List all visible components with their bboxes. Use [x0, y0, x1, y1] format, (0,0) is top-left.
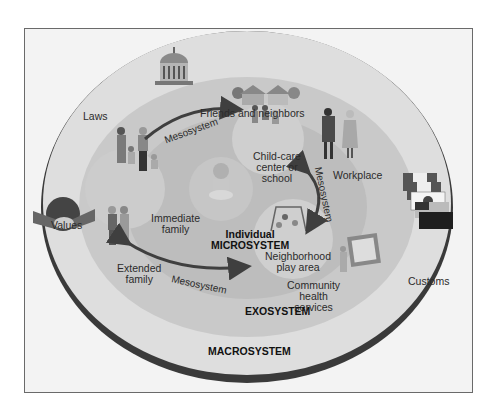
immediate-family-label: Immediate family [151, 213, 200, 235]
childcare-label: Child-care center or school [253, 151, 301, 184]
values-label: Values [51, 220, 82, 231]
microsystem-label: Individual MICROSYSTEM [211, 229, 289, 251]
customs-label: Customs [408, 276, 449, 287]
play-area-label: Neighborhood play area [265, 251, 331, 273]
workplace-label: Workplace [333, 170, 382, 181]
exosystem-label: EXOSYSTEM [245, 306, 310, 317]
laws-label: Laws [83, 111, 108, 122]
extended-family-label: Extended family [117, 263, 161, 285]
diagram-frame: Laws Friends and neighbors Workplace Val… [24, 28, 473, 393]
macrosystem-label: MACROSYSTEM [208, 346, 291, 357]
ecological-model-graphic [25, 29, 472, 392]
